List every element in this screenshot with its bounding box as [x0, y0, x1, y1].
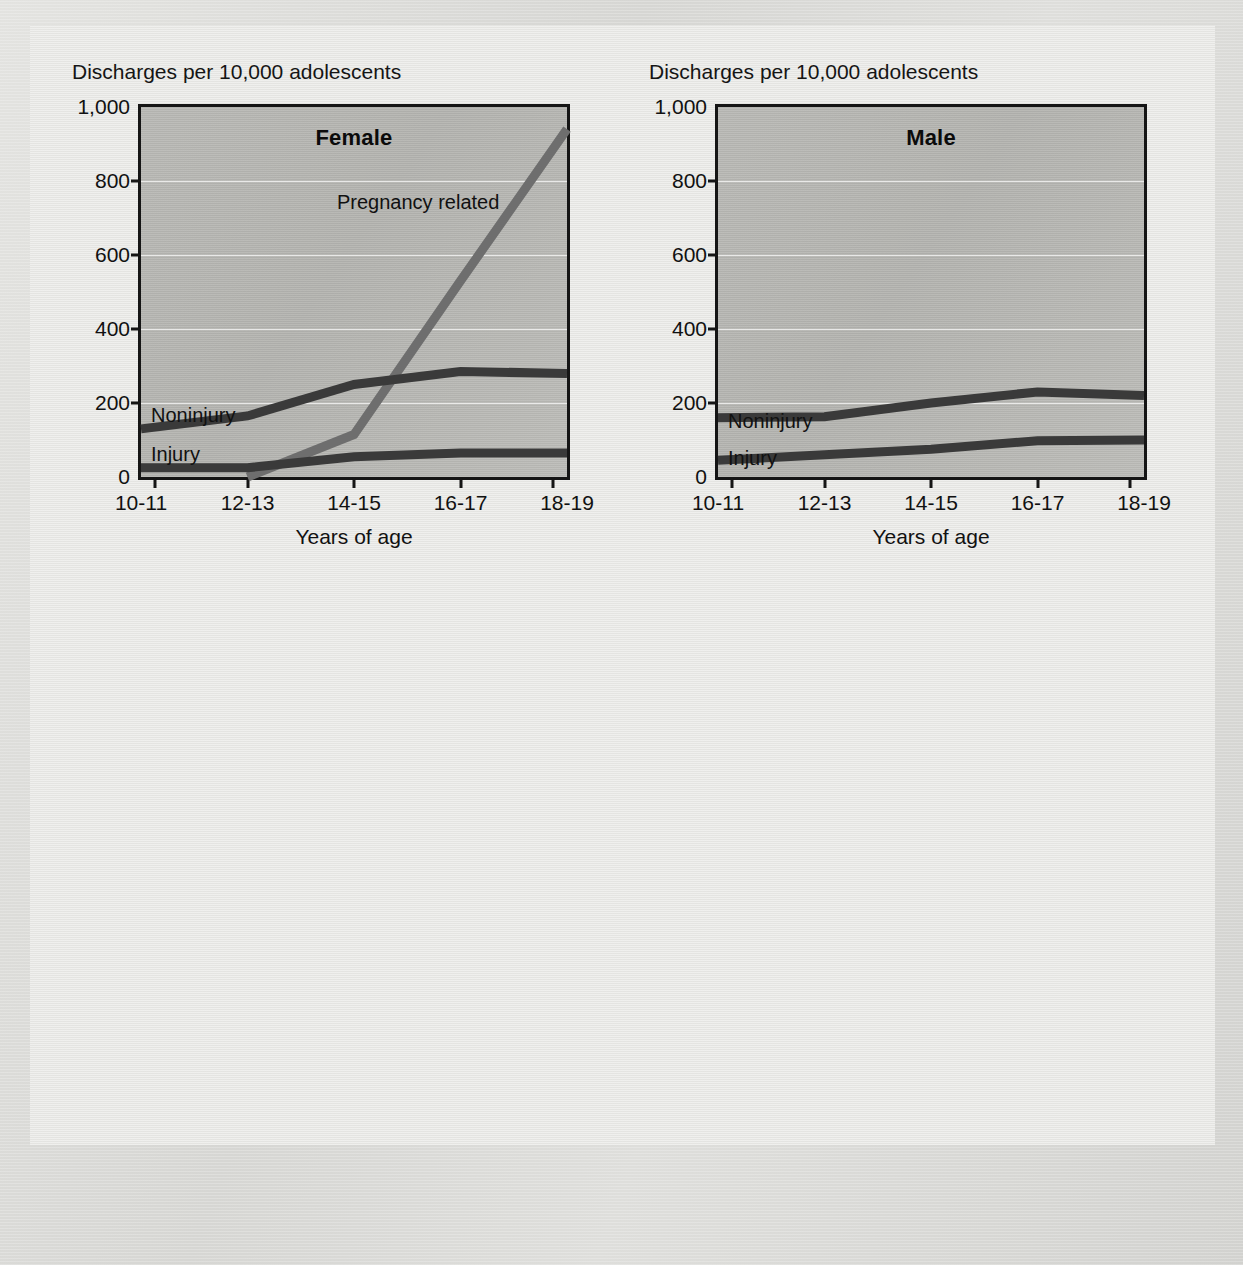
x-axis-tick-mark	[1129, 477, 1132, 488]
y-axis-tick-label: 1,000	[654, 95, 718, 119]
x-axis-tick-label: 12-13	[798, 491, 852, 515]
x-axis-tick-mark	[552, 477, 555, 488]
plot-area-male: Male 1,000800600400200010-1112-1314-1516…	[715, 104, 1147, 480]
x-axis-tick-mark	[823, 477, 826, 488]
y-axis-tick-mark	[131, 328, 141, 331]
x-axis-tick-label: 14-15	[904, 491, 958, 515]
x-axis-title: Years of age	[872, 525, 989, 549]
series-label-noninjury: Noninjury	[728, 410, 812, 433]
chart-panel-female: Discharges per 10,000 adolescents Female…	[60, 60, 570, 517]
plot-area-female: Female 1,000800600400200010-1112-1314-15…	[138, 104, 570, 480]
x-axis-tick-label: 12-13	[221, 491, 275, 515]
y-axis-tick-label: 1,000	[77, 95, 141, 119]
plot-wrap-female: Female 1,000800600400200010-1112-1314-15…	[60, 92, 570, 517]
series-label-noninjury: Noninjury	[151, 404, 235, 427]
x-axis-tick-mark	[353, 477, 356, 488]
series-label-injury: Injury	[151, 443, 200, 466]
x-axis-tick-label: 18-19	[540, 491, 594, 515]
x-axis-tick-label: 10-11	[115, 491, 167, 515]
y-axis-tick-mark	[131, 254, 141, 257]
y-axis-tick-mark	[708, 328, 718, 331]
y-axis-caption-male: Discharges per 10,000 adolescents	[649, 60, 1147, 84]
series-line-pregnancy-related	[248, 129, 568, 477]
x-axis-tick-label: 18-19	[1117, 491, 1171, 515]
x-axis-tick-mark	[731, 477, 734, 488]
x-axis-tick-mark	[1036, 477, 1039, 488]
x-axis-title: Years of age	[295, 525, 412, 549]
x-axis-tick-label: 16-17	[434, 491, 488, 515]
chart-panel-male: Discharges per 10,000 adolescents Male 1…	[637, 60, 1147, 517]
y-axis-tick-mark	[708, 402, 718, 405]
x-axis-tick-label: 14-15	[327, 491, 381, 515]
y-axis-tick-mark	[708, 254, 718, 257]
x-axis-tick-mark	[930, 477, 933, 488]
series-label-pregnancy: Pregnancy related	[337, 191, 499, 214]
plot-wrap-male: Male 1,000800600400200010-1112-1314-1516…	[637, 92, 1147, 517]
x-axis-tick-label: 16-17	[1011, 491, 1065, 515]
y-axis-tick-mark	[131, 402, 141, 405]
y-axis-tick-label: 0	[118, 465, 141, 489]
x-axis-tick-mark	[154, 477, 157, 488]
y-axis-tick-label: 0	[695, 465, 718, 489]
series-line-injury	[718, 440, 1144, 460]
series-line-injury	[141, 453, 567, 468]
y-axis-tick-mark	[708, 180, 718, 183]
y-axis-tick-mark	[131, 180, 141, 183]
y-axis-caption-female: Discharges per 10,000 adolescents	[72, 60, 570, 84]
x-axis-tick-label: 10-11	[692, 491, 744, 515]
x-axis-tick-mark	[459, 477, 462, 488]
series-label-injury: Injury	[728, 447, 777, 470]
